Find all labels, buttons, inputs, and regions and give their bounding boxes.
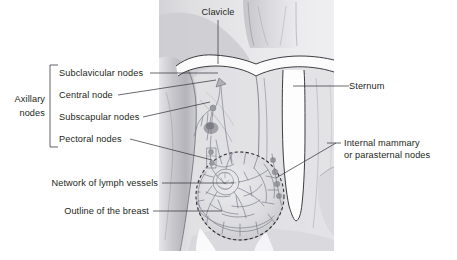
label-outline-of-the-breast: Outline of the breast [64,206,149,216]
label-axillary-line2: nodes [19,108,45,118]
figure-root: Clavicle Sternum Internal mammary or par… [0,0,457,260]
label-central-node: Central node [59,90,113,100]
axillary-nodes-bracket [50,65,58,147]
label-internal-mammary-line2: or parasternal nodes [344,150,431,160]
anatomy-diagram: Clavicle Sternum Internal mammary or par… [0,0,457,260]
torso-illustration [159,0,334,251]
neck-shape [243,0,301,48]
label-clavicle: Clavicle [202,7,235,17]
central-node [210,105,216,111]
label-subscapular-nodes: Subscapular nodes [59,112,140,122]
label-subclavicular-nodes: Subclavicular nodes [59,68,143,78]
label-pectoral-nodes: Pectoral nodes [59,134,122,144]
label-sternum: Sternum [349,81,385,91]
label-axillary-line1: Axillary [15,94,46,104]
label-network-of-lymph-vessels: Network of lymph vessels [51,178,158,188]
label-internal-mammary-line1: Internal mammary [344,138,420,148]
pectoral-node [209,149,214,155]
